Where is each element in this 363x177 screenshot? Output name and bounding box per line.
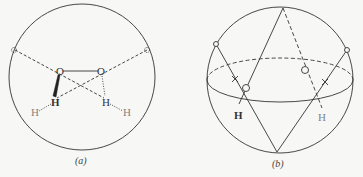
oxygen-back <box>302 67 309 74</box>
sphere-b-outline <box>207 7 353 153</box>
oxygen-left-label: O <box>56 65 64 77</box>
edge-right-to-bottom <box>277 50 347 152</box>
cross-mark-right <box>322 79 328 85</box>
dotted-bond-h-left <box>39 104 51 111</box>
oxygen-right-label: O <box>97 65 105 77</box>
oxygen-front <box>243 85 250 92</box>
equator-front <box>207 80 353 102</box>
hydrogen-dotted-right-label: H <box>123 106 131 118</box>
hydrogen-b-right-label: H <box>318 111 326 123</box>
caption-a: (a) <box>75 155 87 167</box>
hydrogen-b-left-label: H <box>234 109 243 121</box>
wedge-bond-left <box>53 75 60 97</box>
hydrogen-right-label: H <box>102 96 110 108</box>
figure-a <box>9 4 155 150</box>
dotted-bond-h-right <box>110 104 123 111</box>
figure-canvas: O O H H H H (a) H H (b) <box>0 0 363 177</box>
hydrogen-left-label: H <box>51 96 60 108</box>
figure-b <box>207 7 353 153</box>
lone-pair-right <box>345 48 350 53</box>
lone-pair-left <box>214 42 219 47</box>
equator-back <box>207 58 353 80</box>
dotted-bond-right <box>102 76 105 96</box>
hydrogen-dotted-left-label: H <box>31 106 39 118</box>
sphere-a-outline <box>9 4 155 150</box>
edge-top-to-h-right <box>283 8 322 108</box>
caption-b: (b) <box>272 158 284 170</box>
